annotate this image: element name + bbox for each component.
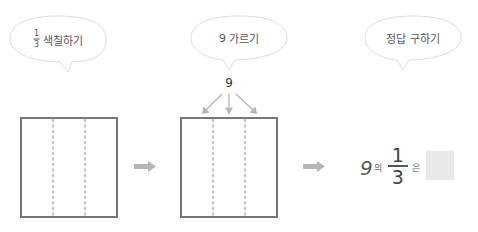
bubble-label-shade: 1 3 색칠하기 (34, 30, 83, 49)
answer-expression: 9 의 1 3 은 (360, 146, 454, 186)
fraction-diagram: 1 3 색칠하기 9 가르기 정답 구하기 9 9 의 1 3 은 (0, 0, 478, 232)
distribution-arrows (202, 94, 257, 115)
particle-of: 의 (374, 161, 382, 174)
bubble-label-answer: 정답 구하기 (386, 30, 440, 46)
bubble-text-answer: 정답 구하기 (386, 30, 440, 46)
fraction-numerator: 1 (392, 146, 404, 164)
right-arrow-icon (303, 161, 325, 172)
fraction-numerator: 1 (34, 30, 39, 38)
whole-number: 9 (360, 158, 373, 178)
bubble-number: 9 (219, 32, 226, 45)
one-third-fraction: 1 3 (34, 30, 40, 49)
right-arrow-icon (134, 161, 156, 172)
whole-box-left (21, 118, 117, 217)
fraction-denominator: 3 (392, 168, 404, 186)
answer-fraction: 1 3 (388, 146, 408, 186)
particle-topic: 은 (412, 161, 420, 174)
answer-blank-box[interactable] (426, 151, 454, 180)
bubble-text-divide: 가르기 (229, 30, 259, 46)
bubble-text-shade: 색칠하기 (43, 31, 83, 47)
bubble-label-divide: 9 가르기 (219, 30, 259, 46)
divisor-number: 9 (225, 76, 233, 90)
whole-box-middle (181, 118, 277, 217)
fraction-denominator: 3 (34, 41, 39, 49)
